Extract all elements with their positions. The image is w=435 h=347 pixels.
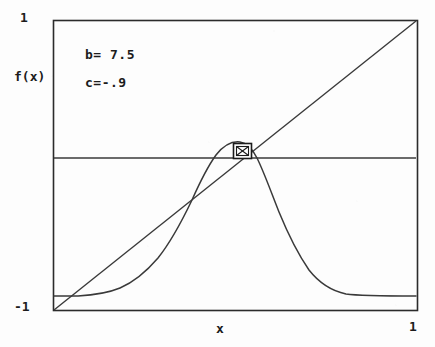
y-axis-min-label: -1 (14, 300, 30, 313)
figure-panel: 1 -1 f(x) x 1 b= 7.5 c=-.9 (0, 0, 435, 347)
fixed-point-marker (234, 144, 252, 159)
identity-line (54, 21, 416, 310)
y-axis-max-label: 1 (20, 11, 28, 24)
x-axis-title: x (216, 322, 224, 335)
parameter-b-annotation: b= 7.5 (85, 48, 135, 61)
y-axis-title: f(x) (14, 70, 45, 83)
parameter-c-annotation: c=-.9 (85, 76, 127, 89)
plot-canvas (0, 0, 435, 347)
x-axis-max-label: 1 (409, 320, 417, 333)
